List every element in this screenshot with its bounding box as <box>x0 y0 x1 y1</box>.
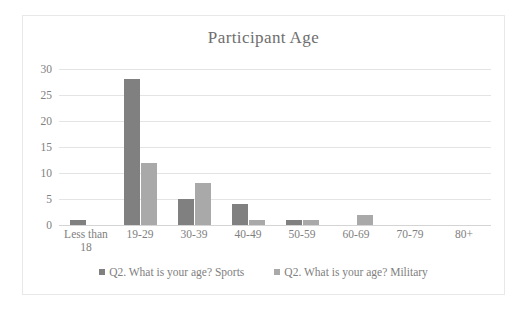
x-axis-label: Less than 18 <box>59 228 113 254</box>
bar-group <box>329 69 383 225</box>
legend-entry[interactable]: Q2. What is your age? Sports <box>99 266 244 278</box>
y-axis-tick-label: 30 <box>41 63 53 75</box>
x-axis-label: 70-79 <box>383 228 437 241</box>
legend-label: Q2. What is your age? Sports <box>109 266 244 278</box>
bar[interactable] <box>195 183 211 225</box>
legend-entry[interactable]: Q2. What is your age? Military <box>274 266 428 278</box>
y-axis-tick-label: 20 <box>41 115 53 127</box>
bars-layer <box>59 69 491 225</box>
bar[interactable] <box>357 215 373 225</box>
bar-group <box>437 69 491 225</box>
x-axis-label: 19-29 <box>113 228 167 241</box>
chart-legend: Q2. What is your age? SportsQ2. What is … <box>23 266 504 278</box>
y-axis-tick-label: 15 <box>41 141 53 153</box>
chart-title: Participant Age <box>23 28 504 48</box>
gridline <box>59 225 491 226</box>
chart-frame: Participant Age 051015202530 Less than 1… <box>22 15 505 295</box>
bar[interactable] <box>249 220 265 225</box>
x-axis-label: 50-59 <box>275 228 329 241</box>
y-axis-tick-label: 0 <box>46 219 52 231</box>
x-axis-category-labels: Less than 1819-2930-3940-4950-5960-6970-… <box>59 228 491 268</box>
bar[interactable] <box>70 220 86 225</box>
y-axis-tick-label: 5 <box>46 193 52 205</box>
legend-label: Q2. What is your age? Military <box>284 266 428 278</box>
bar[interactable] <box>286 220 302 225</box>
y-axis-tick-label: 10 <box>41 167 53 179</box>
bar-group <box>275 69 329 225</box>
x-axis-label: 80+ <box>437 228 491 241</box>
bar[interactable] <box>303 220 319 225</box>
bar[interactable] <box>178 199 194 225</box>
legend-swatch-icon <box>274 269 280 275</box>
bar-group <box>113 69 167 225</box>
y-axis-tick-label: 25 <box>41 89 53 101</box>
bar[interactable] <box>232 204 248 225</box>
bar[interactable] <box>141 163 157 225</box>
x-axis-label: 60-69 <box>329 228 383 241</box>
x-axis-label: 40-49 <box>221 228 275 241</box>
bar-group <box>167 69 221 225</box>
x-axis-label: 30-39 <box>167 228 221 241</box>
bar-group <box>221 69 275 225</box>
bar[interactable] <box>124 79 140 225</box>
plot-area: 051015202530 <box>59 69 491 225</box>
bar-group <box>59 69 113 225</box>
bar-group <box>383 69 437 225</box>
legend-swatch-icon <box>99 269 105 275</box>
